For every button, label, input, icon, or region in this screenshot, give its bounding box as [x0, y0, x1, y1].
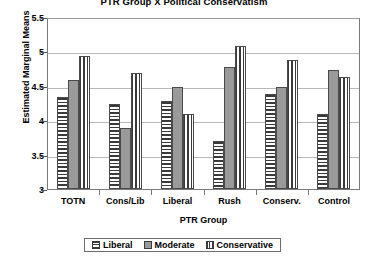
bar	[265, 94, 276, 189]
x-tick-mark	[99, 190, 100, 195]
bar-group	[255, 19, 307, 189]
legend-label: Conservative	[217, 240, 274, 250]
bar	[235, 46, 246, 189]
x-tick-mark	[256, 190, 257, 195]
legend-item: Conservative	[206, 240, 274, 250]
x-tick-label: Conserv.	[256, 196, 308, 206]
bar	[276, 87, 287, 189]
bar	[172, 87, 183, 189]
bar	[213, 141, 224, 189]
bar-group	[48, 19, 100, 189]
y-tick-label: 4.5	[4, 82, 44, 92]
bar-group	[203, 19, 255, 189]
bar	[120, 128, 131, 189]
chart-title: PTR Group X Political Conservatism	[0, 0, 368, 7]
x-tick-label: Rush	[204, 196, 256, 206]
legend-label: Liberal	[103, 240, 133, 250]
bar	[317, 114, 328, 189]
bar	[68, 80, 79, 189]
legend-item: Liberal	[92, 240, 133, 250]
x-tick-label: Control	[308, 196, 360, 206]
chart-container: PTR Group X Political Conservatism Estim…	[0, 0, 368, 259]
bar	[131, 73, 142, 189]
y-tick-label: 4	[4, 116, 44, 126]
y-tick-label: 3.5	[4, 151, 44, 161]
legend-swatch-icon	[92, 241, 100, 249]
bar	[161, 101, 172, 189]
legend-item: Moderate	[144, 240, 195, 250]
y-tick-label: 3	[4, 185, 44, 195]
x-tick-mark	[204, 190, 205, 195]
bar	[328, 70, 339, 189]
bar-group	[307, 19, 359, 189]
y-tick-mark	[41, 87, 47, 88]
x-tick-label: TOTN	[47, 196, 99, 206]
bar	[79, 56, 90, 189]
x-axis-title: PTR Group	[47, 215, 360, 225]
y-tick-mark	[41, 52, 47, 53]
chart-legend: LiberalModerateConservative	[84, 238, 281, 252]
y-tick-mark	[41, 156, 47, 157]
bar-groups	[48, 19, 359, 189]
bar-group	[152, 19, 204, 189]
bar	[183, 114, 194, 189]
y-tick-label: 5.5	[4, 13, 44, 23]
bar	[57, 97, 68, 189]
x-tick-label: Liberal	[151, 196, 203, 206]
bar-group	[100, 19, 152, 189]
legend-swatch-icon	[206, 241, 214, 249]
bar	[339, 77, 350, 189]
bar	[109, 104, 120, 189]
y-tick-label: 5	[4, 47, 44, 57]
x-tick-label: Cons/Lib	[99, 196, 151, 206]
legend-label: Moderate	[155, 240, 195, 250]
bar	[287, 60, 298, 189]
y-tick-mark	[41, 121, 47, 122]
y-tick-mark	[41, 18, 47, 19]
legend-swatch-icon	[144, 241, 152, 249]
bar	[224, 67, 235, 189]
x-tick-mark	[308, 190, 309, 195]
x-tick-mark	[151, 190, 152, 195]
x-axis-labels: TOTNCons/LibLiberalRushConserv.Control	[47, 196, 360, 206]
